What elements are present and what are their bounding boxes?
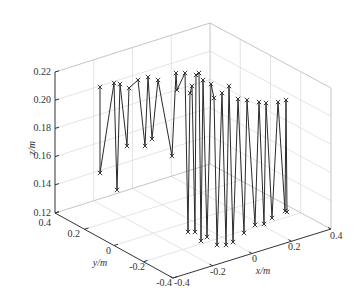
z-tick: 0.20	[34, 94, 52, 105]
x-axis-label: x/m	[255, 265, 270, 276]
y-tick: -0.2	[129, 261, 145, 272]
x-tick: 0	[252, 253, 257, 264]
y-axis-label: y/m	[92, 257, 107, 268]
z-tick: 0.22	[34, 66, 52, 77]
y-tick: -0.4	[156, 277, 172, 288]
y-tick-labels: 0.4 0.2 0 -0.2 -0.4	[39, 217, 173, 288]
x-tick: -0.2	[210, 266, 226, 277]
x-tick: -0.4	[174, 277, 190, 288]
z-tick: 0.14	[34, 178, 52, 189]
y-tick: 0.2	[68, 228, 81, 239]
y-tick: 0	[106, 245, 111, 256]
z-axis-label: z/m	[26, 141, 37, 156]
x-tick: 0.4	[330, 230, 343, 241]
y-tick: 0.4	[39, 217, 52, 228]
3d-line-chart: 0.22 0.20 0.18 0.16 0.14 0.12 0.4 0.2 0 …	[0, 0, 363, 305]
z-tick: 0.18	[34, 122, 52, 133]
x-tick: 0.2	[288, 241, 301, 252]
